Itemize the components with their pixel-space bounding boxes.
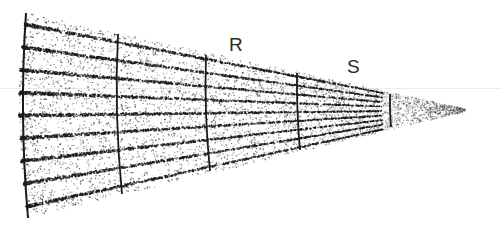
striation-lines	[18, 22, 384, 208]
wedge-diagram	[0, 0, 501, 232]
label-s: S	[347, 57, 360, 76]
label-r: R	[229, 35, 243, 54]
diagram-canvas: R S	[0, 0, 501, 232]
